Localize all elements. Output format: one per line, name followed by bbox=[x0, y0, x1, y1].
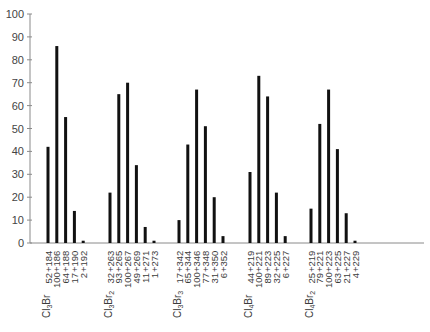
axes bbox=[27, 14, 424, 243]
bar bbox=[73, 211, 76, 243]
bar bbox=[186, 145, 189, 243]
y-tick-label: 40 bbox=[2, 145, 24, 157]
bar bbox=[336, 149, 339, 243]
bar bbox=[204, 126, 207, 243]
bar bbox=[284, 236, 287, 243]
bar bbox=[55, 46, 58, 243]
y-tick-label: 90 bbox=[2, 31, 24, 43]
y-tick-label: 70 bbox=[2, 77, 24, 89]
mass-label: +352 bbox=[219, 251, 228, 272]
bar bbox=[109, 193, 112, 243]
bar bbox=[144, 227, 147, 243]
abundance-label: 6 bbox=[219, 273, 228, 288]
y-tick-label: 80 bbox=[2, 54, 24, 66]
bar bbox=[213, 197, 216, 243]
bar bbox=[327, 90, 330, 243]
bar bbox=[47, 147, 50, 243]
formula-label: Cl4Br bbox=[244, 295, 256, 318]
bar bbox=[310, 209, 313, 243]
bar bbox=[153, 241, 156, 243]
bar bbox=[195, 90, 198, 243]
abundance-label: 4 bbox=[351, 273, 360, 288]
bar bbox=[354, 241, 357, 243]
abundance-label: 6 bbox=[281, 273, 290, 288]
formula-label: Cl4Br2 bbox=[305, 291, 317, 318]
mass-label: +192 bbox=[79, 251, 88, 272]
abundance-label: 2 bbox=[79, 273, 88, 288]
y-tick-label: 10 bbox=[2, 214, 24, 226]
formula-label: Cl3Br2 bbox=[104, 291, 116, 318]
mass-label: +273 bbox=[150, 251, 159, 272]
bar bbox=[257, 76, 260, 243]
bar bbox=[126, 83, 129, 243]
bar bbox=[117, 94, 120, 243]
bar bbox=[82, 241, 85, 243]
bar bbox=[222, 236, 225, 243]
formula-label: Cl3Br bbox=[42, 295, 54, 318]
bars bbox=[47, 46, 357, 243]
bar bbox=[318, 124, 321, 243]
y-tick-label: 0 bbox=[2, 237, 24, 249]
bar bbox=[249, 172, 252, 243]
abundance-label: 1 bbox=[150, 273, 159, 288]
bar bbox=[135, 165, 138, 243]
y-tick-label: 20 bbox=[2, 191, 24, 203]
y-tick-label: 100 bbox=[2, 8, 24, 20]
bar bbox=[178, 220, 181, 243]
formula-label: Cl3Br3 bbox=[173, 291, 185, 318]
bar bbox=[64, 117, 67, 243]
bar bbox=[266, 96, 269, 243]
bar bbox=[345, 213, 348, 243]
y-tick-label: 30 bbox=[2, 168, 24, 180]
bar bbox=[275, 193, 278, 243]
y-tick-label: 50 bbox=[2, 123, 24, 135]
y-tick-label: 60 bbox=[2, 100, 24, 112]
mass-label: +227 bbox=[281, 251, 290, 272]
mass-label: +229 bbox=[351, 251, 360, 272]
